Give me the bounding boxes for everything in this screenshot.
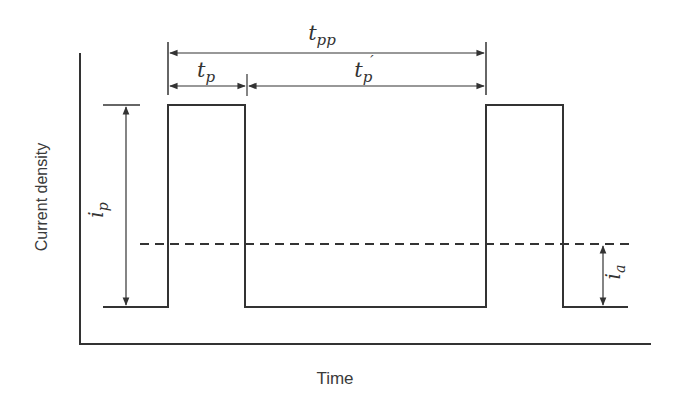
on-time-label: tp	[197, 58, 215, 86]
average-current-dimension: ia	[601, 246, 628, 305]
average-current-label: ia	[601, 265, 628, 280]
axes	[79, 53, 651, 345]
pulse-waveform	[103, 105, 628, 307]
peak-current-label: ip	[84, 202, 111, 217]
period-label: tpp	[308, 21, 336, 49]
pulse-waveform-diagram: ip ia tpp tp tp′ Current density Time	[0, 0, 700, 403]
y-axis-label: Current density	[33, 143, 50, 252]
time-dimensions: tpp tp tp′	[168, 21, 486, 96]
off-time-label: tp′	[354, 52, 374, 86]
x-axis-label: Time	[316, 369, 353, 388]
peak-current-dimension: ip	[84, 105, 140, 305]
